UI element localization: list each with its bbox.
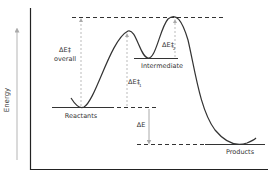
barrier2-subscript: 2 xyxy=(173,46,176,51)
overall-barrier-label: ΔE‡ xyxy=(59,46,72,54)
energy-diagram: Energy ΔE‡ overall ΔE‡ 1 ΔE‡ 2 ΔE Reacta… xyxy=(0,0,272,171)
barrier1-subscript: 1 xyxy=(139,83,142,88)
reaction-energy-label: ΔE xyxy=(137,121,146,129)
reaction-curve xyxy=(71,17,256,145)
reactants-label: Reactants xyxy=(65,112,98,120)
energy-axis-label: Energy xyxy=(3,88,11,113)
overall-barrier-word: overall xyxy=(54,55,76,63)
intermediate-label: Intermediate xyxy=(141,62,183,70)
products-label: Products xyxy=(226,148,255,156)
